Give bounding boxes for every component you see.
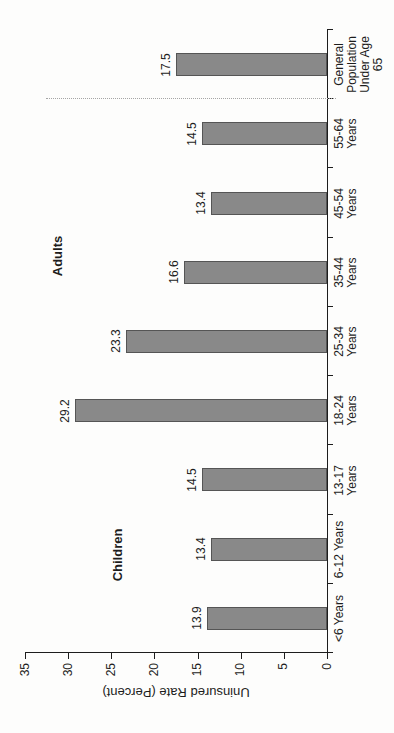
bar [211, 192, 327, 215]
bar-value-label: 13.9 [190, 588, 204, 648]
scanned-chart-page: Uninsured Rate (Percent) 051015202530351… [0, 0, 394, 733]
rotated-bar-chart: Uninsured Rate (Percent) 051015202530351… [0, 0, 394, 733]
y-axis-tick [284, 653, 285, 659]
bar [207, 607, 327, 630]
y-axis-tick-label: 0 [321, 663, 334, 707]
category-label: 45-54 Years [333, 165, 359, 242]
y-axis-line [25, 652, 328, 653]
category-label: 55-64 Years [333, 95, 359, 172]
category-label: 18-24 Years [333, 372, 359, 449]
bar-value-label: 13.4 [194, 173, 208, 233]
y-axis-tick-label: 25 [105, 663, 118, 707]
chart-layer: 0510152025303513.9<6 Years13.46-12 Years… [0, 0, 394, 733]
y-axis-tick-label: 5 [277, 663, 290, 707]
y-axis-tick-label: 35 [19, 663, 32, 707]
annotation-label: Adults [50, 236, 65, 276]
y-axis-tick [198, 653, 199, 659]
bar-value-label: 17.5 [159, 35, 173, 95]
bar-value-label: 13.4 [194, 519, 208, 579]
bar-value-label: 14.5 [185, 104, 199, 164]
y-axis-tick [154, 653, 155, 659]
y-axis-tick [68, 653, 69, 659]
bar [126, 330, 327, 353]
category-label: 13-17 Years [333, 442, 359, 519]
category-label: <6 Years [333, 580, 346, 657]
bar-value-label: 23.3 [109, 311, 123, 371]
category-label: General Population Under Age 65 [333, 26, 385, 103]
bar [202, 468, 327, 491]
group-separator-line [46, 98, 336, 99]
y-axis-tick-label: 15 [191, 663, 204, 707]
bar-value-label: 14.5 [185, 450, 199, 510]
annotation-label: Children [110, 529, 125, 582]
y-axis-tick [241, 653, 242, 659]
y-axis-tick-label: 20 [148, 663, 161, 707]
y-axis-tick-label: 30 [62, 663, 75, 707]
bar [184, 261, 327, 284]
bar-value-label: 16.6 [167, 242, 181, 302]
y-axis-tick [111, 653, 112, 659]
bar [75, 399, 327, 422]
x-axis-line [327, 29, 328, 653]
bar [211, 538, 327, 561]
bar [202, 122, 327, 145]
y-axis-tick-label: 10 [234, 663, 247, 707]
category-label: 6-12 Years [333, 511, 346, 588]
category-label: 25-34 Years [333, 303, 359, 380]
y-axis-tick [327, 653, 328, 659]
category-label: 35-44 Years [333, 234, 359, 311]
y-axis-tick [25, 653, 26, 659]
bar-value-label: 29.2 [58, 381, 72, 441]
bar [176, 53, 327, 76]
